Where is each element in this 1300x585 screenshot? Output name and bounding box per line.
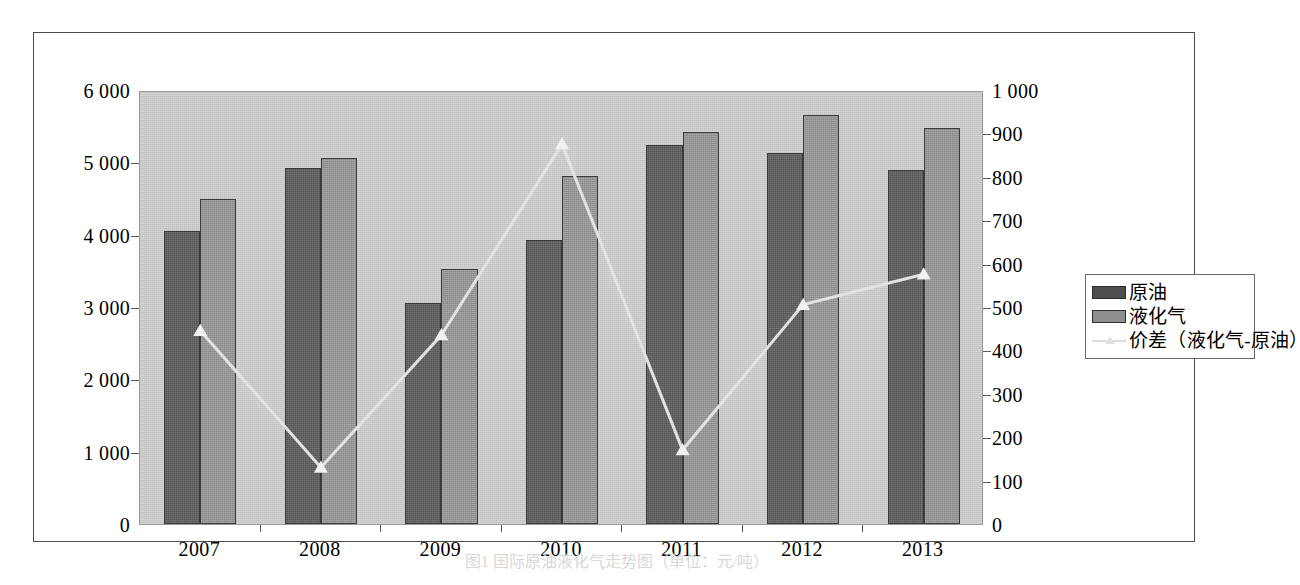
x-axis-tick bbox=[260, 525, 261, 532]
y-axis-tick bbox=[131, 163, 139, 164]
price-difference-line: 价差（液化气-原油） 2007: 450价差（液化气-原油） 2008: 135… bbox=[140, 92, 983, 525]
y2-axis-tick bbox=[983, 265, 991, 266]
y2-axis-tick bbox=[983, 221, 991, 222]
y-axis-tick bbox=[131, 380, 139, 381]
y2-axis-tick bbox=[983, 134, 991, 135]
figure-frame: 6 0005 0004 0003 0002 0001 0000 1 000900… bbox=[33, 32, 1195, 542]
legend-item-label: 原油 bbox=[1129, 282, 1167, 303]
legend-line-icon bbox=[1092, 334, 1126, 347]
secondary-y-axis: 1 0009008007006005004003002001000 bbox=[992, 91, 1072, 525]
legend-item-label: 价差（液化气-原油） bbox=[1129, 330, 1300, 351]
legend-item[interactable]: 液化气 bbox=[1092, 304, 1248, 328]
legend-swatch-icon bbox=[1092, 310, 1126, 323]
y-axis-tick bbox=[131, 308, 139, 309]
y2-axis-tick bbox=[983, 308, 991, 309]
legend-item[interactable]: 价差（液化气-原油） bbox=[1092, 328, 1248, 352]
y2-axis-tick bbox=[983, 178, 991, 179]
y-axis-tick-label: 5 000 bbox=[84, 153, 131, 173]
y-axis-tick-label: 1 000 bbox=[84, 443, 131, 463]
line-path bbox=[200, 144, 923, 467]
y2-axis-tick-label: 800 bbox=[992, 168, 1023, 188]
y2-axis-tick-label: 400 bbox=[992, 341, 1023, 361]
y2-axis-tick bbox=[983, 438, 991, 439]
y2-axis-tick-label: 300 bbox=[992, 385, 1023, 405]
x-axis-tick bbox=[501, 525, 502, 532]
legend-swatch-icon bbox=[1092, 286, 1126, 299]
y2-axis-tick-label: 0 bbox=[992, 515, 1002, 535]
y2-axis-tick-label: 200 bbox=[992, 428, 1023, 448]
y2-axis-tick-label: 900 bbox=[992, 124, 1023, 144]
x-axis-tick bbox=[621, 525, 622, 532]
y2-axis-tick bbox=[983, 395, 991, 396]
x-axis-tick bbox=[742, 525, 743, 532]
y2-axis-tick-label: 500 bbox=[992, 298, 1023, 318]
legend-item-label: 液化气 bbox=[1129, 306, 1187, 327]
y-axis-tick bbox=[131, 236, 139, 237]
y-axis-tick-label: 0 bbox=[120, 515, 130, 535]
primary-y-axis: 6 0005 0004 0003 0002 0001 0000 bbox=[52, 91, 130, 525]
figure-caption: 图1 国际原油液化气走势图（单位：元/吨） bbox=[0, 552, 1234, 572]
y-axis-tick bbox=[131, 453, 139, 454]
x-axis-tick bbox=[862, 525, 863, 532]
line-marker: 价差（液化气-原油） 2007: 450 bbox=[193, 324, 207, 336]
y2-axis-tick-label: 700 bbox=[992, 211, 1023, 231]
y2-axis-tick-label: 100 bbox=[992, 472, 1023, 492]
y-axis-tick-label: 2 000 bbox=[84, 370, 131, 390]
y2-axis-tick-label: 1 000 bbox=[992, 81, 1039, 101]
line-marker: 价差（液化气-原油） 2013: 580 bbox=[917, 267, 931, 279]
legend-item[interactable]: 原油 bbox=[1092, 280, 1248, 304]
y-axis-tick-label: 6 000 bbox=[84, 81, 131, 101]
legend: 原油液化气价差（液化气-原油） bbox=[1085, 274, 1255, 359]
plot-area: 价差（液化气-原油） 2007: 450价差（液化气-原油） 2008: 135… bbox=[139, 91, 983, 525]
y2-axis-tick bbox=[983, 482, 991, 483]
y2-axis-tick bbox=[983, 351, 991, 352]
y2-axis-tick-label: 600 bbox=[992, 255, 1023, 275]
y-axis-tick-label: 4 000 bbox=[84, 226, 131, 246]
line-marker: 价差（液化气-原油） 2010: 880 bbox=[555, 137, 569, 149]
y-axis-tick-label: 3 000 bbox=[84, 298, 131, 318]
x-axis-tick bbox=[380, 525, 381, 532]
